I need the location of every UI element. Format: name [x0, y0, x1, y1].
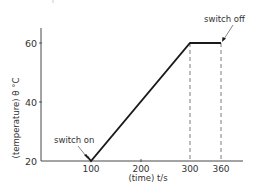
switch-off-annotation: switch off	[204, 14, 246, 24]
x-tick-label-300: 300	[181, 164, 198, 174]
switch-off-arrowhead-icon	[222, 37, 226, 42]
switch-on-pointer	[78, 146, 86, 156]
switch-off-pointer	[224, 25, 233, 39]
x-tick-label-360: 360	[212, 164, 229, 174]
temperature-time-chart: 60 40 20 100 200 300 360 (time) t/s (tem…	[0, 0, 254, 188]
y-tick-label-40: 40	[25, 97, 37, 108]
x-tick-label-100: 100	[82, 164, 99, 174]
y-axis-label: (temperature) θ °C	[11, 78, 21, 159]
y-tick-label-60: 60	[25, 38, 37, 49]
switch-on-annotation: switch on	[54, 135, 94, 145]
y-tick-label-20: 20	[25, 156, 37, 167]
temperature-series-line	[87, 43, 221, 161]
x-axis-label: (time) t/s	[128, 173, 168, 183]
